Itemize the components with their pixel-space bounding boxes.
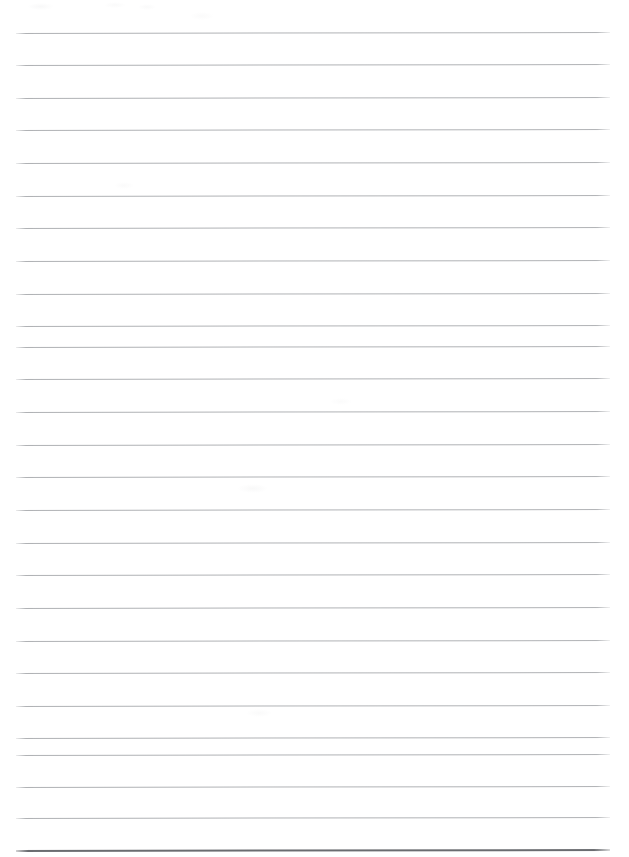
- rule-line: [16, 542, 610, 544]
- rule-line: [16, 817, 610, 819]
- rule-line: [16, 411, 610, 413]
- rule-line: [16, 672, 610, 674]
- rule-line: [16, 346, 610, 348]
- rule-line: [16, 607, 610, 609]
- rule-line: [16, 378, 610, 380]
- rule-line: [16, 786, 610, 788]
- rule-line: [16, 476, 610, 478]
- rule-line-bottom-heavy: [16, 849, 610, 852]
- ruled-line-sheet: [0, 0, 629, 857]
- rule-line: [16, 640, 610, 642]
- rule-line: [16, 444, 610, 446]
- rule-line: [16, 195, 610, 197]
- rule-line: [16, 754, 610, 756]
- rule-line: [16, 162, 610, 164]
- rule-line: [16, 227, 610, 229]
- rule-line: [16, 32, 610, 34]
- rule-line: [16, 509, 610, 511]
- rule-line: [16, 97, 610, 99]
- rule-line: [16, 64, 610, 66]
- rule-line: [16, 705, 610, 707]
- rule-line: [16, 293, 610, 295]
- rule-line: [16, 574, 610, 576]
- rule-line: [16, 325, 610, 327]
- rule-line: [16, 260, 610, 262]
- rule-line: [16, 129, 610, 131]
- rule-line: [16, 737, 610, 739]
- scanned-page: [0, 0, 629, 857]
